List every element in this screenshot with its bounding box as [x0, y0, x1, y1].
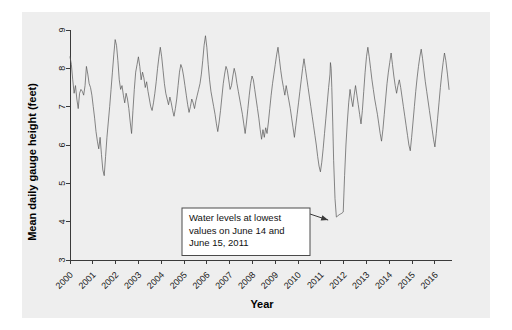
x-tick-label: 2007: [213, 270, 234, 291]
x-tick-label: 2011: [305, 270, 326, 291]
y-tick-label: 3: [57, 257, 67, 262]
x-tick-label: 2006: [191, 270, 212, 291]
x-tick-label: 2002: [99, 270, 120, 291]
annotation-group: Water levels at lowestvalues on June 14 …: [182, 208, 328, 256]
x-tick-label: 2016: [419, 270, 440, 291]
x-tick-label: 2009: [259, 270, 280, 291]
y-tick-label: 9: [57, 27, 67, 32]
x-axis-title: Year: [250, 298, 274, 310]
y-tick-label: 4: [57, 219, 67, 224]
x-tick-label: 2004: [145, 270, 166, 291]
y-axis-title: Mean daily gauge height (feet): [26, 83, 38, 241]
series-path: [70, 36, 449, 217]
x-tick-label: 2000: [54, 270, 75, 291]
annotation-text-line: Water levels at lowest: [189, 212, 281, 223]
y-tick-label: 7: [57, 104, 67, 109]
annotation-text-line: June 15, 2011: [189, 237, 249, 248]
x-tick-label: 2003: [122, 270, 143, 291]
x-tick-label: 2005: [168, 270, 189, 291]
x-tick-label: 2012: [327, 270, 348, 291]
x-tick-label: 2008: [236, 270, 257, 291]
x-tick-label: 2001: [77, 270, 98, 291]
y-tick-label: 5: [57, 181, 67, 186]
y-tick-label: 6: [57, 142, 67, 147]
x-tick-label: 2010: [282, 270, 303, 291]
x-tick-label: 2013: [350, 270, 371, 291]
x-tick-label: 2015: [396, 270, 417, 291]
gauge-height-line-chart: 3456789200020012002200320042005200620072…: [22, 12, 490, 318]
annotation-arrow-head: [321, 215, 329, 220]
figure-panel: 3456789200020012002200320042005200620072…: [22, 12, 490, 318]
data-series-group: [70, 36, 449, 217]
x-tick-label: 2014: [373, 270, 394, 291]
y-tick-label: 8: [57, 66, 67, 71]
annotation-text-line: values on June 14 and: [189, 225, 285, 236]
